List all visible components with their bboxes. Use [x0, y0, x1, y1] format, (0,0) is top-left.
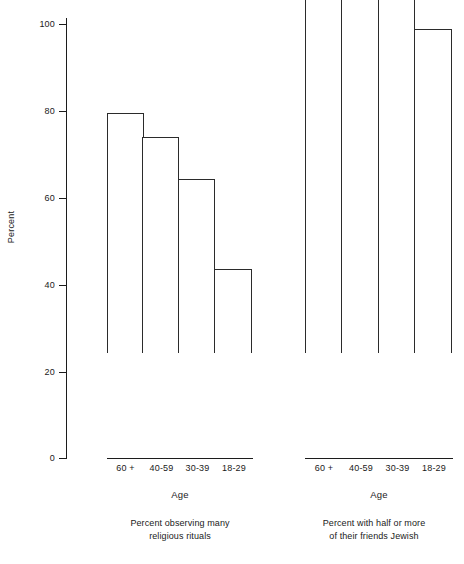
bar-right-60plus[interactable] — [305, 0, 343, 353]
x-label-right-2: 30-39 — [379, 463, 416, 473]
panel-caption-right: Percent with half or more of their frien… — [283, 517, 464, 542]
bar-right-30-39[interactable] — [378, 0, 415, 353]
x-axis-line-right — [305, 458, 453, 459]
bar-right-18-29[interactable] — [414, 29, 452, 353]
x-axis-title-right: Age — [305, 489, 453, 500]
panel-right: 60 + 40-59 30-39 18-29 Age Percent with … — [0, 0, 464, 564]
figure-bar-chart-pair: Percent 100 80 60 40 20 0 60 + 40-59 30-… — [0, 0, 464, 564]
x-label-right-0: 60 + — [305, 463, 343, 473]
bar-right-40-59[interactable] — [341, 0, 379, 353]
x-label-right-3: 18-29 — [415, 463, 453, 473]
panel-caption-right-line2: of their friends Jewish — [283, 530, 464, 543]
x-label-right-1: 40-59 — [342, 463, 380, 473]
panel-caption-right-line1: Percent with half or more — [283, 517, 464, 530]
